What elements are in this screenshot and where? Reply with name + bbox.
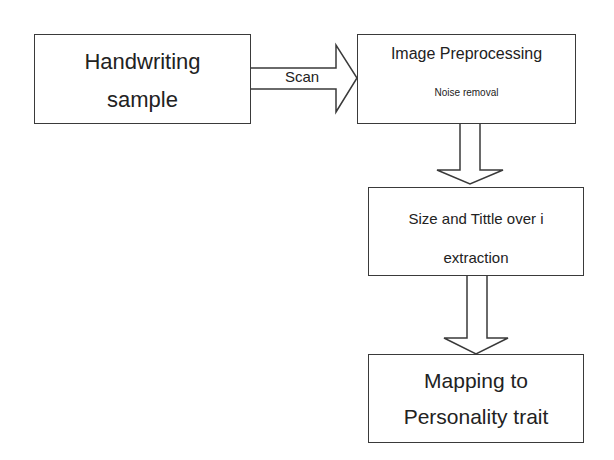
- node-preprocessing-subtitle: Noise removal: [358, 87, 575, 98]
- down-arrow-1: [437, 123, 503, 184]
- node-extraction-line1: Size and Tittle over i: [369, 210, 583, 227]
- node-handwriting-sample: Handwriting sample: [34, 34, 251, 124]
- node-handwriting-line1: Handwriting: [35, 49, 250, 75]
- scan-label: Scan: [272, 68, 332, 85]
- node-extraction-line2: extraction: [369, 249, 583, 266]
- node-handwriting-line2: sample: [35, 87, 250, 113]
- down-arrow-2: [444, 275, 508, 354]
- node-image-preprocessing: Image Preprocessing Noise removal: [357, 34, 576, 124]
- node-size-extraction: Size and Tittle over i extraction: [368, 187, 584, 276]
- node-mapping-line2: Personality trait: [369, 405, 583, 429]
- node-preprocessing-title: Image Preprocessing: [358, 45, 575, 63]
- node-mapping-line1: Mapping to: [369, 369, 583, 393]
- node-mapping-personality: Mapping to Personality trait: [368, 354, 584, 443]
